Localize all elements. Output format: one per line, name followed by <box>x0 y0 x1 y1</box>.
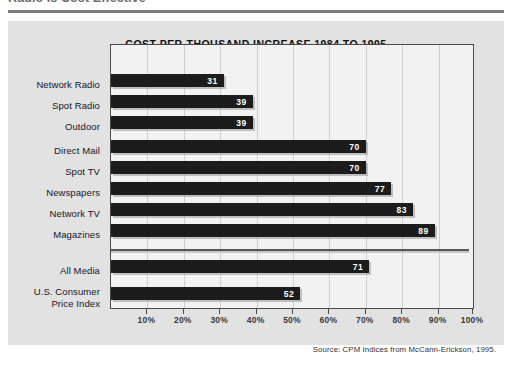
bar-network-tv: 83 <box>111 203 413 216</box>
axis-tick-10 <box>146 309 147 314</box>
axis-label-80: 80% <box>392 315 410 325</box>
axis-tick-60 <box>328 309 329 314</box>
category-label-magazines: Magazines <box>53 229 100 240</box>
category-label-cpi-line2: Price Index <box>51 298 100 309</box>
axis-tick-50 <box>292 309 293 314</box>
axis-label-20: 20% <box>174 315 192 325</box>
bar-value-all-media: 71 <box>353 262 364 272</box>
axis-label-50: 50% <box>283 315 301 325</box>
axis-label-40: 40% <box>247 315 265 325</box>
source-note: Source: CPM Indices from McCann-Erickson… <box>313 345 496 354</box>
axis-tick-40 <box>256 309 257 314</box>
category-label-newspapers: Newspapers <box>46 187 100 198</box>
page-title: Radio Is Cost Effective <box>8 0 146 5</box>
value-axis-labels: 10% 20% 30% 40% 50% 60% 70% 80% 90% 100% <box>110 315 474 329</box>
chart-screenshot: Radio Is Cost Effective COST-PER-THOUSAN… <box>0 0 512 366</box>
bar-value-network-radio: 31 <box>207 76 218 86</box>
bar-series: 31 39 39 70 <box>111 45 473 308</box>
bar-value-cpi: 52 <box>284 289 295 299</box>
bar-value-spot-radio: 39 <box>236 97 247 107</box>
bar-all-media: 71 <box>111 260 369 273</box>
axis-label-100: 100% <box>461 315 484 325</box>
bar-value-outdoor: 39 <box>236 118 247 128</box>
heading-divider <box>8 10 504 13</box>
bar-magazines: 89 <box>111 224 435 237</box>
bar-cpi: 52 <box>111 287 300 300</box>
axis-label-60: 60% <box>320 315 338 325</box>
axis-tick-70 <box>365 309 366 314</box>
bar-value-magazines: 89 <box>418 226 429 236</box>
category-label-network-radio: Network Radio <box>36 79 100 90</box>
bar-newspapers: 77 <box>111 182 391 195</box>
figure-panel: COST-PER-THOUSAND INCREASE 1984 TO 1995 … <box>8 21 504 345</box>
axis-tick-30 <box>219 309 220 314</box>
axis-label-10: 10% <box>138 315 156 325</box>
axis-label-70: 70% <box>356 315 374 325</box>
bar-value-network-tv: 83 <box>396 205 407 215</box>
category-label-all-media: All Media <box>60 265 100 276</box>
group-divider <box>111 249 469 251</box>
bar-value-spot-tv: 70 <box>349 163 360 173</box>
category-label-spot-radio: Spot Radio <box>52 100 100 111</box>
bar-spot-radio: 39 <box>111 95 253 108</box>
bar-spot-tv: 70 <box>111 161 366 174</box>
axis-label-30: 30% <box>210 315 228 325</box>
axis-tick-100 <box>472 309 473 314</box>
bar-value-direct-mail: 70 <box>349 142 360 152</box>
category-label-spot-tv: Spot TV <box>65 166 100 177</box>
category-label-direct-mail: Direct Mail <box>54 145 100 156</box>
axis-label-90: 90% <box>429 315 447 325</box>
bar-value-newspapers: 77 <box>375 184 386 194</box>
category-label-cpi-line1: U.S. Consumer <box>34 286 100 297</box>
bar-outdoor: 39 <box>111 116 253 129</box>
category-label-outdoor: Outdoor <box>65 121 100 132</box>
axis-tick-20 <box>183 309 184 314</box>
axis-tick-90 <box>438 309 439 314</box>
category-label-network-tv: Network TV <box>50 208 100 219</box>
axis-tick-80 <box>401 309 402 314</box>
category-axis-labels: Network Radio Spot Radio Outdoor Direct … <box>8 44 106 309</box>
bar-direct-mail: 70 <box>111 140 366 153</box>
bar-network-radio: 31 <box>111 74 224 87</box>
plot-area: 31 39 39 70 <box>110 44 474 309</box>
